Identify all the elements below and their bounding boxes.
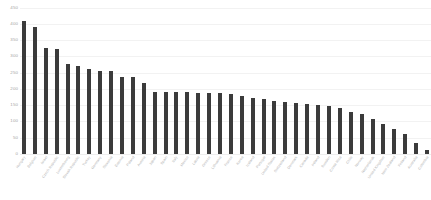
- x-axis-tick-label: Italy: [173, 156, 180, 164]
- bar: [76, 66, 80, 154]
- bar: [98, 71, 102, 154]
- x-axis: HungaryBelgiumIsraelCzech RepublicLuxemb…: [20, 155, 431, 200]
- x-axis-tick: Iceland: [251, 155, 255, 200]
- x-axis-tick: Ireland: [316, 155, 320, 200]
- x-axis-tick: Sweden: [327, 155, 331, 200]
- x-axis-tick: Korea: [240, 155, 244, 200]
- bar: [164, 92, 168, 154]
- x-axis-tick-label: Chile: [346, 156, 354, 165]
- y-axis-tick-label: 400: [10, 22, 18, 26]
- x-axis-tick: Hungary: [22, 155, 26, 200]
- y-axis-tick-label: 50: [13, 136, 18, 140]
- bar: [360, 114, 364, 154]
- x-axis-tick-label: Canada: [300, 156, 310, 169]
- bar: [240, 96, 244, 154]
- x-axis-tick: Costa Rica: [338, 155, 342, 200]
- bar: [55, 49, 59, 154]
- bar: [109, 71, 113, 154]
- x-axis-tick: Spain: [164, 155, 168, 200]
- x-axis-tick-label: Estonia: [115, 156, 125, 168]
- bar: [349, 112, 353, 154]
- x-axis-tick: Turkey: [87, 155, 91, 200]
- x-axis-tick-label: Poland: [126, 156, 136, 167]
- x-axis-tick: Lithuania: [218, 155, 222, 200]
- y-axis-tick-label: 0: [15, 152, 18, 156]
- bar: [33, 27, 37, 154]
- x-axis-tick-label: Austria: [137, 156, 147, 168]
- x-axis-tick-label: Spain: [160, 156, 168, 166]
- y-axis: 450400350300250200150100500: [0, 0, 20, 160]
- x-axis-tick: Italy: [174, 155, 178, 200]
- x-axis-tick: Slovak Republic: [76, 155, 80, 200]
- x-axis-tick-label: France: [224, 156, 234, 167]
- bar: [283, 102, 287, 154]
- x-axis-tick: Czech Republic: [55, 155, 59, 200]
- y-axis-tick-label: 300: [10, 54, 18, 58]
- x-axis-tick: Colombia: [425, 155, 429, 200]
- y-axis-tick-label: 100: [10, 119, 18, 123]
- x-axis-tick: Mexico: [185, 155, 189, 200]
- x-axis-tick-label: Japan: [149, 156, 158, 166]
- x-axis-tick-label: Israel: [41, 156, 49, 166]
- x-axis-tick-label: Germany: [92, 156, 104, 170]
- bar: [87, 69, 91, 154]
- x-axis-tick: Poland: [131, 155, 135, 200]
- x-axis-tick: Japan: [153, 155, 157, 200]
- x-axis-tick-label: Korea: [236, 156, 245, 166]
- y-axis-tick-label: 450: [10, 5, 18, 9]
- bar: [414, 143, 418, 154]
- bar: [218, 93, 222, 154]
- x-axis-tick: France: [229, 155, 233, 200]
- x-axis-tick: United Kingdom: [381, 155, 385, 200]
- x-axis-tick: Norway: [360, 155, 364, 200]
- x-axis-tick: Finland: [403, 155, 407, 200]
- x-axis-tick: Germany: [98, 155, 102, 200]
- bar: [174, 92, 178, 154]
- x-axis-tick: Portugal: [262, 155, 266, 200]
- bar: [294, 103, 298, 154]
- y-axis-tick-label: 350: [10, 38, 18, 42]
- bar: [185, 92, 189, 154]
- bar: [371, 119, 375, 154]
- x-axis-tick-label: Belgium: [27, 156, 38, 169]
- bar: [196, 93, 200, 154]
- x-axis-tick: Australia: [414, 155, 418, 200]
- y-axis-tick-label: 250: [10, 70, 18, 74]
- bar: [425, 150, 429, 154]
- bar-series: [20, 8, 431, 155]
- x-axis-tick-label: Mexico: [181, 156, 191, 168]
- x-axis-tick: United States: [272, 155, 276, 200]
- bar: [272, 101, 276, 154]
- y-axis-tick-label: 150: [10, 103, 18, 107]
- bar: [327, 106, 331, 154]
- bar: [207, 93, 211, 154]
- x-axis-tick: Belgium: [33, 155, 37, 200]
- x-axis-tick: Estonia: [120, 155, 124, 200]
- bar: [22, 21, 26, 154]
- bar: [251, 98, 255, 154]
- bar: [381, 124, 385, 154]
- bar: [229, 94, 233, 154]
- bar: [120, 77, 124, 154]
- bar: [392, 129, 396, 154]
- bar: [262, 99, 266, 154]
- bar: [153, 92, 157, 155]
- x-axis-tick: Chile: [349, 155, 353, 200]
- bar: [66, 64, 70, 154]
- bar: [403, 134, 407, 154]
- x-axis-tick: Greece: [207, 155, 211, 200]
- x-axis-tick-label: Slovenia: [103, 156, 114, 170]
- x-axis-tick: New Zealand: [392, 155, 396, 200]
- x-axis-tick: Slovenia: [109, 155, 113, 200]
- bar: [142, 83, 146, 154]
- x-axis-tick: Austria: [142, 155, 146, 200]
- x-axis-tick: Switzerland: [283, 155, 287, 200]
- x-axis-tick: Latvia: [196, 155, 200, 200]
- y-axis-tick-label: 200: [10, 87, 18, 91]
- bar: [338, 108, 342, 154]
- bar-chart: 450400350300250200150100500 HungaryBelgi…: [0, 0, 431, 200]
- x-axis-tick: Denmark: [294, 155, 298, 200]
- x-axis-tick-label: Colombia: [418, 156, 430, 171]
- x-axis-tick: Canada: [305, 155, 309, 200]
- x-axis-tick-label: Denmark: [288, 156, 300, 170]
